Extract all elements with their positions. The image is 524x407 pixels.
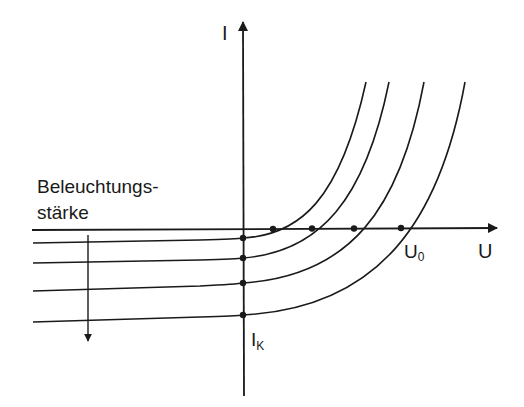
short-circuit-point-2 <box>240 255 246 261</box>
open-circuit-point-4 <box>398 225 404 231</box>
short-circuit-current-label: IK <box>251 329 264 353</box>
u0-sub: 0 <box>418 250 425 264</box>
y-axis-label: I <box>222 22 228 44</box>
short-circuit-point-3 <box>240 280 246 286</box>
iv-curve-4 <box>33 82 465 322</box>
illumination-label-line1: Beleuchtungs- <box>37 176 158 197</box>
u0-main: U <box>404 241 418 262</box>
iv-diagram: I U U0 IK Beleuchtungs- stärke <box>0 0 524 407</box>
short-circuit-point-1 <box>240 235 246 241</box>
open-circuit-voltage-label: U0 <box>404 241 425 264</box>
x-axis-label: U <box>478 240 492 262</box>
open-circuit-point-2 <box>309 225 315 231</box>
ik-sub: K <box>256 339 264 353</box>
open-circuit-point-1 <box>270 226 276 232</box>
open-circuit-point-3 <box>351 225 357 231</box>
x-axis <box>32 228 497 230</box>
short-circuit-point-4 <box>240 312 246 318</box>
illumination-label-line2: stärke <box>37 202 89 223</box>
y-axis <box>243 22 244 396</box>
